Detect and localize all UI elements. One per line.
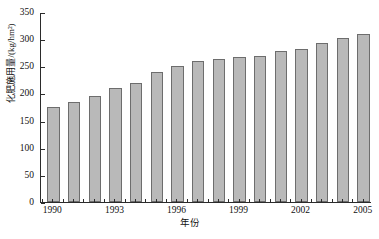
x-axis-tick-mark	[239, 199, 240, 203]
x-axis-tick-label: 1990	[43, 205, 62, 215]
y-axis-tick-label: 100	[20, 144, 34, 154]
x-axis-tick-mark	[352, 199, 353, 203]
bar	[171, 66, 183, 202]
x-axis-tick-mark	[156, 199, 157, 203]
bar	[357, 34, 369, 202]
x-axis-tick-mark	[176, 199, 177, 203]
x-axis-tick-mark	[270, 199, 271, 203]
x-axis-tick-label: 1996	[167, 205, 186, 215]
x-axis-tick-mark	[332, 199, 333, 203]
bar	[192, 61, 204, 202]
y-axis-tick-label: 300	[20, 35, 34, 45]
bar	[275, 51, 287, 202]
y-axis-tick-label: 50	[25, 171, 35, 181]
x-axis-tick-label: 1999	[229, 205, 248, 215]
bar-series-group	[41, 13, 371, 202]
x-axis-tick-mark	[63, 199, 64, 203]
x-axis-tick-mark	[249, 199, 250, 203]
bar	[337, 38, 349, 202]
x-axis-tick-label: 2005	[353, 205, 372, 215]
x-axis-tick-mark	[301, 199, 302, 203]
x-axis-tick-mark	[145, 199, 146, 203]
bar	[233, 57, 245, 202]
x-axis-tick-mark	[208, 199, 209, 203]
x-axis-tick-label: 1993	[105, 205, 124, 215]
x-axis-tick-mark	[311, 199, 312, 203]
x-axis-tick-mark	[73, 199, 74, 203]
fertilizer-application-bar-chart: 化肥施用量/(kg/hm²) 050100150200250300350 199…	[0, 0, 379, 239]
x-axis-tick-mark	[342, 199, 343, 203]
bar	[47, 107, 59, 202]
x-axis-tick-mark	[166, 199, 167, 203]
x-axis-tick-mark	[125, 199, 126, 203]
bar	[130, 83, 142, 202]
x-axis-title: 年份	[0, 218, 379, 229]
bar	[213, 59, 225, 202]
x-axis-tick-mark	[94, 199, 95, 203]
plot-area	[40, 13, 371, 203]
bar	[295, 49, 307, 202]
x-axis-tick-mark	[135, 199, 136, 203]
x-axis-tick-mark	[290, 199, 291, 203]
x-axis-tick-mark	[228, 199, 229, 203]
y-axis-tick-label: 200	[20, 89, 34, 99]
x-axis-tick-mark	[83, 199, 84, 203]
x-axis-tick-label: 2002	[291, 205, 310, 215]
y-axis-tick-label-group: 050100150200250300350	[0, 0, 36, 239]
bar	[254, 56, 266, 202]
x-axis-tick-mark	[280, 199, 281, 203]
x-axis-tick-mark	[363, 199, 364, 203]
y-axis-tick-label: 350	[20, 8, 34, 18]
x-axis-tick-mark	[197, 199, 198, 203]
bar	[68, 102, 80, 202]
x-axis-tick-mark	[259, 199, 260, 203]
x-axis-tick-mark	[218, 199, 219, 203]
x-axis-tick-mark	[114, 199, 115, 203]
x-axis-tick-label-group: 199019931996199920022005	[0, 205, 379, 219]
bar	[109, 88, 121, 202]
bar	[151, 72, 163, 202]
x-axis-tick-mark	[321, 199, 322, 203]
x-axis-tick-mark	[52, 199, 53, 203]
y-axis-tick-label: 250	[20, 62, 34, 72]
x-axis-tick-mark	[187, 199, 188, 203]
bar	[89, 96, 101, 202]
x-axis-tick-mark	[42, 199, 43, 203]
x-axis-tick-mark	[104, 199, 105, 203]
bar	[316, 43, 328, 202]
y-axis-tick-label: 150	[20, 117, 34, 127]
